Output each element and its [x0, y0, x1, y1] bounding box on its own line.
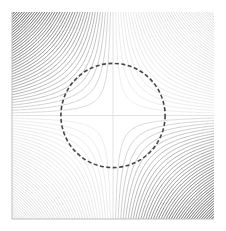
contour-line	[209, 214, 214, 219]
contour-line	[12, 12, 17, 17]
contour-plot	[0, 0, 226, 231]
contour-line	[12, 149, 80, 219]
contour-line	[146, 12, 214, 82]
contour-line	[12, 12, 95, 97]
contour-line	[12, 134, 95, 219]
contour-line	[12, 144, 85, 219]
contour-line	[211, 12, 214, 15]
contour-line	[12, 214, 17, 219]
contour-line	[164, 12, 215, 64]
contour-line	[12, 123, 105, 219]
contour-line	[131, 12, 214, 97]
contour-line	[121, 12, 214, 108]
contour-line	[131, 134, 214, 219]
contour-line	[141, 12, 214, 87]
contour-line	[12, 12, 105, 108]
contour-line	[121, 123, 214, 219]
contour-line	[12, 167, 63, 219]
contour-line	[209, 12, 214, 17]
